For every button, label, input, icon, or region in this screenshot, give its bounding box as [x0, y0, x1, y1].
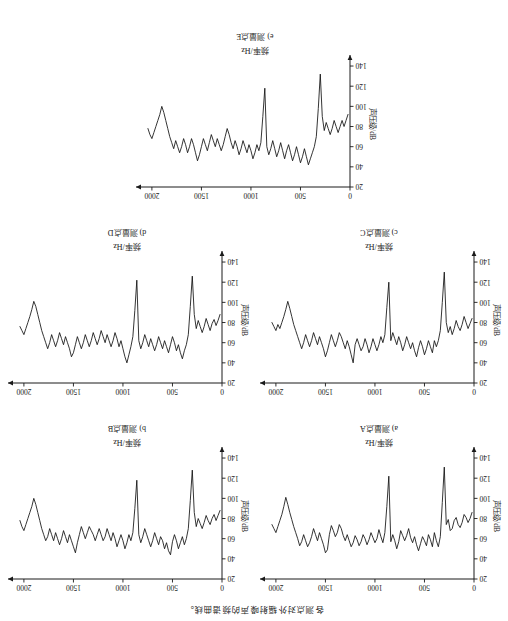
- svg-text:40: 40: [355, 162, 363, 171]
- svg-text:声压级/dB: 声压级/dB: [492, 304, 502, 336]
- svg-text:60: 60: [227, 534, 235, 543]
- svg-text:1500: 1500: [66, 387, 81, 396]
- svg-text:20: 20: [227, 378, 235, 387]
- panel-b-title: b) 测量点B: [2, 424, 252, 435]
- svg-text:60: 60: [355, 142, 363, 151]
- svg-text:80: 80: [479, 514, 487, 523]
- figure-caption: 各测点对外辐射噪声的频谱曲线。: [0, 605, 508, 617]
- svg-text:140: 140: [479, 257, 491, 266]
- panel-d-xaxis-label: 频率/Hz: [2, 242, 252, 253]
- svg-text:500: 500: [419, 583, 431, 592]
- svg-text:500: 500: [167, 583, 179, 592]
- svg-text:60: 60: [479, 338, 487, 347]
- panel-c-title: c) 测量点C: [254, 228, 504, 239]
- svg-text:20: 20: [355, 182, 363, 191]
- svg-text:120: 120: [227, 474, 239, 483]
- panel-e-plot: 050010001500200020406080100120140声压级/dB: [130, 39, 380, 207]
- panel-a-title: a) 测量点A: [254, 424, 504, 435]
- svg-text:20: 20: [479, 378, 487, 387]
- svg-text:60: 60: [227, 338, 235, 347]
- svg-text:2000: 2000: [16, 583, 31, 592]
- panel-c-svg: 050010001500200020406080100120140声压级/dB: [254, 235, 504, 403]
- svg-text:140: 140: [355, 61, 367, 70]
- svg-text:1500: 1500: [66, 583, 81, 592]
- svg-text:0: 0: [472, 583, 476, 592]
- svg-text:声压级/dB: 声压级/dB: [240, 500, 250, 532]
- svg-text:80: 80: [227, 514, 235, 523]
- svg-text:100: 100: [355, 102, 367, 111]
- panel-c-plot: 050010001500200020406080100120140声压级/dB: [254, 235, 504, 403]
- panel-d: 050010001500200020406080100120140声压级/dB …: [2, 211, 252, 403]
- svg-text:120: 120: [227, 278, 239, 287]
- svg-text:100: 100: [227, 494, 239, 503]
- panel-c-xaxis-label: 频率/Hz: [254, 242, 504, 253]
- panel-c: 050010001500200020406080100120140声压级/dB …: [254, 211, 504, 403]
- panel-d-svg: 050010001500200020406080100120140声压级/dB: [2, 235, 252, 403]
- panel-d-plot: 050010001500200020406080100120140声压级/dB: [2, 235, 252, 403]
- svg-text:40: 40: [479, 554, 487, 563]
- svg-text:80: 80: [227, 318, 235, 327]
- panel-b: 050010001500200020406080100120140声压级/dB …: [2, 407, 252, 599]
- svg-text:100: 100: [227, 298, 239, 307]
- panel-e: 050010001500200020406080100120140声压级/dB …: [130, 12, 380, 207]
- svg-text:1500: 1500: [194, 191, 209, 200]
- svg-text:80: 80: [355, 122, 363, 131]
- svg-text:500: 500: [167, 387, 179, 396]
- svg-text:1500: 1500: [318, 583, 333, 592]
- panel-d-title: d) 测量点D: [2, 228, 252, 239]
- svg-text:2000: 2000: [144, 191, 159, 200]
- svg-text:1000: 1000: [115, 583, 130, 592]
- panel-e-title: e) 测量点E: [130, 32, 380, 43]
- figure-container: 各测点对外辐射噪声的频谱曲线。 050010001500200020406080…: [0, 0, 508, 621]
- svg-text:140: 140: [479, 453, 491, 462]
- panel-b-svg: 050010001500200020406080100120140声压级/dB: [2, 431, 252, 599]
- svg-text:120: 120: [479, 474, 491, 483]
- panel-e-xaxis-label: 频率/Hz: [130, 46, 380, 57]
- svg-text:1500: 1500: [318, 387, 333, 396]
- svg-text:40: 40: [227, 554, 235, 563]
- svg-text:140: 140: [227, 453, 239, 462]
- svg-text:20: 20: [479, 574, 487, 583]
- panel-a-svg: 050010001500200020406080100120140声压级/dB: [254, 431, 504, 599]
- svg-text:声压级/dB: 声压级/dB: [240, 304, 250, 336]
- panel-a: 050010001500200020406080100120140声压级/dB …: [254, 407, 504, 599]
- svg-text:120: 120: [479, 278, 491, 287]
- svg-text:2000: 2000: [16, 387, 31, 396]
- svg-text:500: 500: [419, 387, 431, 396]
- svg-text:0: 0: [220, 387, 224, 396]
- svg-text:声压级/dB: 声压级/dB: [492, 500, 502, 532]
- svg-text:100: 100: [479, 298, 491, 307]
- svg-text:20: 20: [227, 574, 235, 583]
- svg-text:1000: 1000: [115, 387, 130, 396]
- svg-text:1000: 1000: [243, 191, 258, 200]
- panel-b-xaxis-label: 频率/Hz: [2, 438, 252, 449]
- svg-text:2000: 2000: [268, 583, 283, 592]
- svg-text:1000: 1000: [367, 583, 382, 592]
- panel-e-svg: 050010001500200020406080100120140声压级/dB: [130, 39, 380, 207]
- svg-text:声压级/dB: 声压级/dB: [368, 108, 378, 140]
- svg-text:40: 40: [227, 358, 235, 367]
- svg-text:60: 60: [479, 534, 487, 543]
- svg-text:40: 40: [479, 358, 487, 367]
- panel-a-xaxis-label: 频率/Hz: [254, 438, 504, 449]
- svg-text:80: 80: [479, 318, 487, 327]
- panel-b-plot: 050010001500200020406080100120140声压级/dB: [2, 431, 252, 599]
- svg-text:1000: 1000: [367, 387, 382, 396]
- svg-text:140: 140: [227, 257, 239, 266]
- svg-text:120: 120: [355, 82, 367, 91]
- panel-a-plot: 050010001500200020406080100120140声压级/dB: [254, 431, 504, 599]
- svg-text:500: 500: [295, 191, 307, 200]
- svg-text:100: 100: [479, 494, 491, 503]
- svg-text:0: 0: [220, 583, 224, 592]
- svg-text:2000: 2000: [268, 387, 283, 396]
- svg-text:0: 0: [348, 191, 352, 200]
- svg-text:0: 0: [472, 387, 476, 396]
